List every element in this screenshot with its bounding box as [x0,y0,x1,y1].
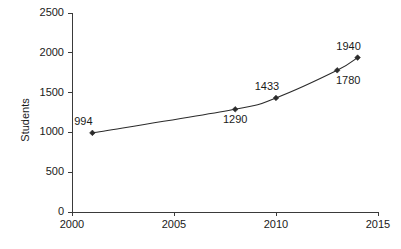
data-point-label: 1940 [336,40,360,52]
x-tick-label: 2000 [60,218,84,230]
x-tick-label: 2015 [366,218,390,230]
y-tick-label: 500 [46,165,64,177]
x-tick-label: 2005 [162,218,186,230]
data-point-marker [273,95,279,101]
data-point-label: 994 [74,115,92,127]
x-axis-ticks: 2000200520102015 [60,212,390,230]
y-axis-ticks: 05001000150020002500 [40,6,72,217]
x-tick-label: 2010 [264,218,288,230]
line-chart: 05001000150020002500 2000200520102015 St… [0,0,401,249]
y-tick-label: 0 [58,205,64,217]
y-tick-label: 2500 [40,6,64,18]
data-point-label: 1290 [223,113,247,125]
data-point-label: 1780 [336,74,360,86]
data-point-labels: 9941290143317801940 [74,40,361,127]
y-tick-label: 1500 [40,86,64,98]
y-axis-title: Students [19,98,31,142]
data-point-marker [90,130,96,136]
data-point-label: 1433 [255,80,279,92]
data-point-marker [334,68,340,74]
data-point-marker [232,107,238,113]
chart-container: 05001000150020002500 2000200520102015 St… [0,0,401,249]
y-tick-label: 2000 [40,46,64,58]
y-tick-label: 1000 [40,125,64,137]
